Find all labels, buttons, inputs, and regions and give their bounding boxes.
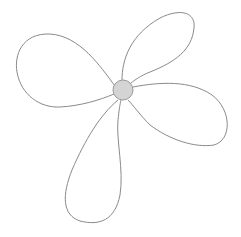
petal-top-right: [122, 13, 194, 83]
petal-right: [128, 83, 227, 145]
petal-bottom: [65, 100, 121, 223]
petal-left: [16, 34, 115, 107]
flower-center: [113, 80, 133, 100]
flower-illustration: [0, 0, 241, 237]
petals-group: [16, 13, 227, 223]
